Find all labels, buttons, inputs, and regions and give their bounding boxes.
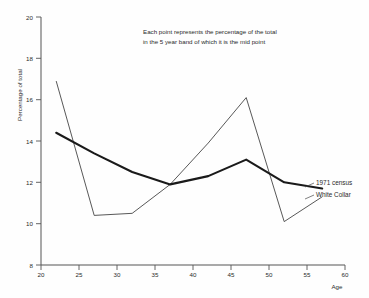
y-tick-label: 16 xyxy=(26,96,33,103)
y-tick-label: 10 xyxy=(26,220,33,227)
x-tick-label: 50 xyxy=(266,271,273,278)
y-axis-tick-labels: 20 18 16 14 12 10 8 xyxy=(26,14,33,269)
y-tick-label: 12 xyxy=(26,179,33,186)
x-tick-label: 25 xyxy=(76,271,83,278)
y-tick-label: 18 xyxy=(26,55,33,62)
x-tick-label: 60 xyxy=(342,271,349,278)
x-axis-tick-labels: 20 25 30 35 40 45 50 55 60 xyxy=(38,271,349,278)
line-chart: 20 18 16 14 12 10 8 20 25 30 35 40 xyxy=(0,0,369,298)
leader-line-white-collar xyxy=(305,195,314,199)
annotation-line-2: in the 5 year band of which it is the mi… xyxy=(143,38,265,45)
x-tick-label: 55 xyxy=(304,271,311,278)
x-tick-label: 35 xyxy=(152,271,159,278)
series-line-white-collar xyxy=(56,81,322,222)
y-axis-title: Percentage of total xyxy=(16,69,23,121)
x-tick-label: 30 xyxy=(114,271,121,278)
series-line-1971-census xyxy=(56,133,322,189)
x-tick-label: 40 xyxy=(190,271,197,278)
x-axis-title: Age xyxy=(331,283,343,290)
series-label-white-collar: White Collar xyxy=(316,191,352,198)
x-axis-ticks xyxy=(41,265,345,270)
y-tick-label: 20 xyxy=(26,14,33,21)
annotation-line-1: Each point represents the percentage of … xyxy=(143,28,277,35)
x-tick-label: 45 xyxy=(228,271,235,278)
chart-page: 20 18 16 14 12 10 8 20 25 30 35 40 xyxy=(0,0,369,298)
x-tick-label: 20 xyxy=(38,271,45,278)
series-label-1971-census: 1971 census xyxy=(316,179,352,186)
y-axis-ticks xyxy=(36,17,41,265)
y-tick-label: 8 xyxy=(30,262,34,269)
y-tick-label: 14 xyxy=(26,138,33,145)
